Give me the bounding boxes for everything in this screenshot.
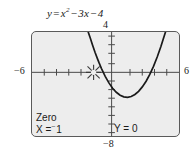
equation-operator-1: − <box>70 7 79 19</box>
equation-term3: 4 <box>98 7 104 19</box>
readout-title: Zero <box>36 112 57 123</box>
equation-operator-2: − <box>89 7 98 19</box>
parabola-curve <box>88 32 165 97</box>
readout-x-number: 1 <box>56 124 62 135</box>
readout-x-label: X = <box>36 124 51 135</box>
graphing-calculator-screen[interactable]: Zero X =⁻1 Y = 0 <box>31 31 180 137</box>
axis-label-ymax: 4 <box>103 19 108 30</box>
zero-cursor-marker[interactable] <box>86 65 101 80</box>
axis-label-xmax: 6 <box>184 65 189 76</box>
equation-label: y=x2−3x−4 <box>47 6 104 19</box>
axis-label-xmin: −6 <box>14 65 25 76</box>
readout-y-value: Y = 0 <box>114 123 137 134</box>
readout-x-value: X =⁻1 <box>36 123 62 135</box>
equation-equals: = <box>52 7 61 19</box>
axis-label-ymin: −8 <box>103 138 114 149</box>
equation-term2: 3x <box>78 7 89 19</box>
